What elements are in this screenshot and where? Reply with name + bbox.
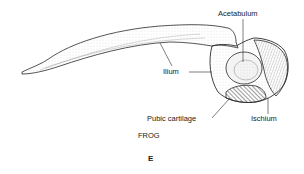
label-acetabulum: Acetabulum (218, 10, 258, 18)
label-ischium: Ischium (251, 115, 277, 123)
acetabular-region (210, 38, 288, 103)
species-caption: FROG (138, 132, 160, 140)
pubic-cartilage-leader (212, 98, 230, 118)
ilium-leader-shaft (160, 43, 172, 66)
pelvic-girdle-drawing (0, 0, 304, 174)
panel-letter: E (148, 155, 153, 163)
ilium-shaft (22, 25, 238, 74)
label-ilium: Ilium (163, 68, 179, 76)
label-pubic-cartilage: Pubic cartilage (147, 115, 196, 123)
frog-pelvic-girdle-figure: Acetabulum Ilium Pubic cartilage Ischium… (0, 0, 304, 174)
